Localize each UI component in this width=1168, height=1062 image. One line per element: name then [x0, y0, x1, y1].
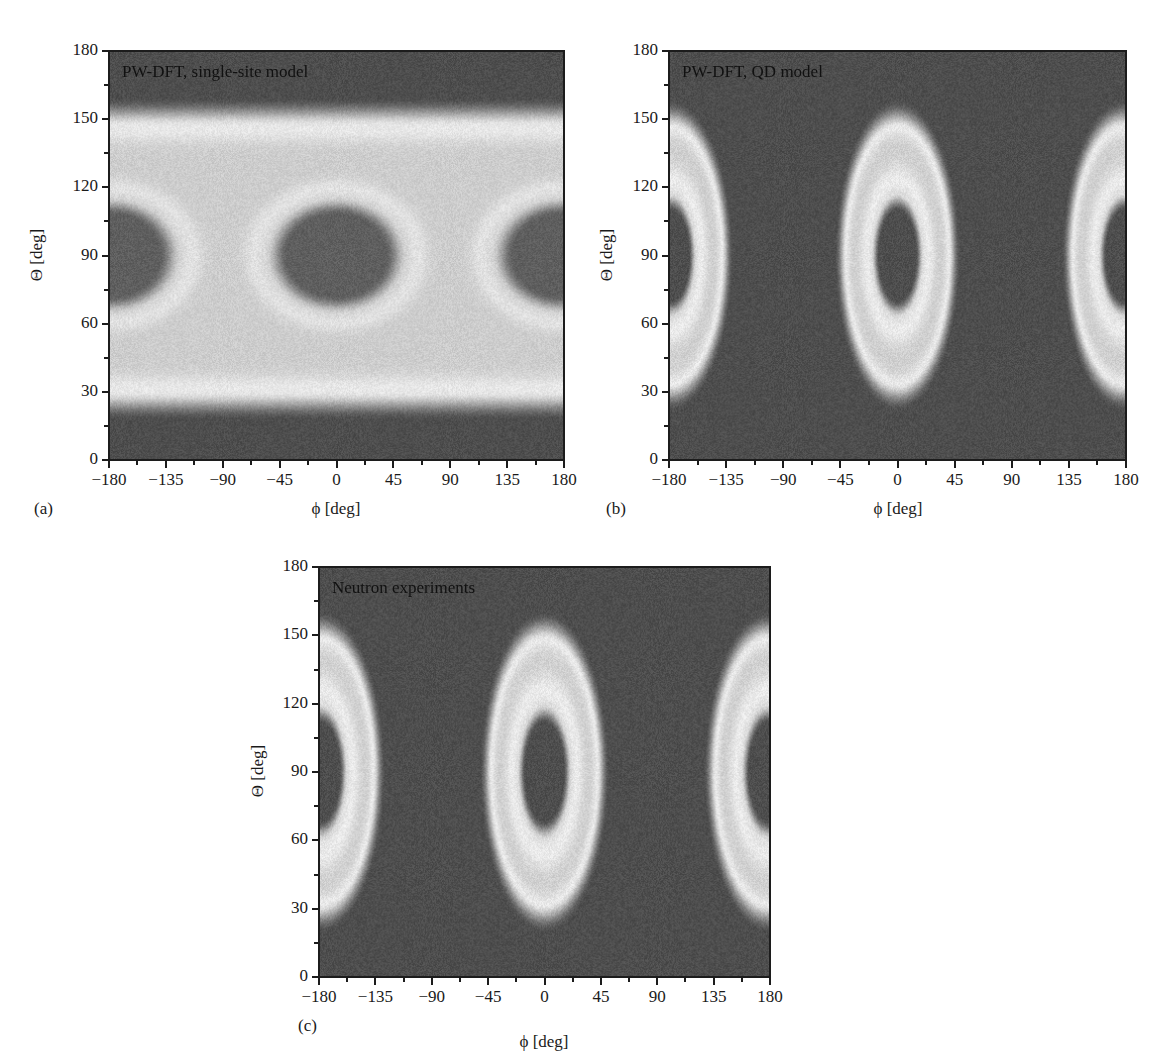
x-tick-mark	[725, 461, 727, 468]
panel-b: PW-DFT, QD model Θ [deg] ϕ [deg] (b) 030…	[584, 0, 1168, 530]
y-axis-label: Θ [deg]	[27, 205, 47, 305]
y-tick-label: 90	[58, 245, 98, 265]
panel-label: (c)	[298, 1016, 317, 1036]
y-tick-mark	[312, 908, 318, 910]
heatmap-canvas-c	[320, 568, 769, 976]
x-tick-label: 0	[520, 987, 570, 1007]
x-tick-mark	[318, 978, 320, 985]
x-tick-mark	[713, 978, 715, 985]
x-minor-tick	[741, 978, 743, 982]
y-minor-tick	[104, 357, 108, 359]
x-tick-label: 180	[1101, 470, 1151, 490]
y-tick-mark	[102, 323, 108, 325]
y-minor-tick	[104, 289, 108, 291]
x-tick-label: −180	[294, 987, 344, 1007]
y-minor-tick	[314, 737, 318, 739]
x-minor-tick	[421, 461, 423, 465]
x-minor-tick	[459, 978, 461, 982]
panel-title: PW-DFT, QD model	[682, 62, 823, 82]
x-tick-label: 45	[930, 470, 980, 490]
heatmap-canvas-a	[110, 52, 563, 459]
y-tick-mark	[662, 255, 668, 257]
y-tick-mark	[102, 255, 108, 257]
x-tick-mark	[954, 461, 956, 468]
y-tick-label: 60	[268, 829, 308, 849]
x-tick-mark	[897, 461, 899, 468]
heatmap-canvas-b	[670, 52, 1125, 459]
x-minor-tick	[515, 978, 517, 982]
y-minor-tick	[314, 805, 318, 807]
heatmap-plot-b: PW-DFT, QD model	[668, 50, 1127, 461]
y-tick-mark	[662, 391, 668, 393]
x-minor-tick	[868, 461, 870, 465]
panel-c: Neutron experiments Θ [deg] ϕ [deg] (c) …	[210, 516, 794, 1062]
x-tick-label: −90	[407, 987, 457, 1007]
x-tick-label: 90	[987, 470, 1037, 490]
y-tick-label: 0	[268, 966, 308, 986]
heatmap-plot-c: Neutron experiments	[318, 566, 771, 978]
x-tick-label: −135	[141, 470, 191, 490]
y-tick-label: 120	[268, 693, 308, 713]
x-tick-label: −45	[463, 987, 513, 1007]
y-tick-mark	[662, 118, 668, 120]
panel-a: PW-DFT, single-site model Θ [deg] ϕ [deg…	[0, 0, 584, 530]
x-tick-label: 135	[482, 470, 532, 490]
y-tick-mark	[312, 771, 318, 773]
x-tick-mark	[392, 461, 394, 468]
y-axis-label: Θ [deg]	[597, 205, 617, 305]
x-minor-tick	[982, 461, 984, 465]
y-minor-tick	[664, 425, 668, 427]
x-tick-mark	[374, 978, 376, 985]
y-tick-mark	[662, 50, 668, 52]
panel-title: PW-DFT, single-site model	[122, 62, 308, 82]
x-tick-label: 0	[873, 470, 923, 490]
y-minor-tick	[664, 84, 668, 86]
y-minor-tick	[664, 220, 668, 222]
x-tick-mark	[1011, 461, 1013, 468]
y-tick-mark	[312, 839, 318, 841]
x-minor-tick	[572, 978, 574, 982]
x-tick-mark	[769, 978, 771, 985]
x-minor-tick	[250, 461, 252, 465]
x-tick-label: 0	[312, 470, 362, 490]
y-tick-label: 0	[618, 449, 658, 469]
x-tick-label: −180	[644, 470, 694, 490]
y-tick-label: 90	[268, 761, 308, 781]
x-axis-label: ϕ [deg]	[798, 499, 998, 519]
x-tick-mark	[506, 461, 508, 468]
x-minor-tick	[684, 978, 686, 982]
x-tick-mark	[449, 461, 451, 468]
y-tick-mark	[312, 566, 318, 568]
x-tick-mark	[782, 461, 784, 468]
x-tick-label: −135	[701, 470, 751, 490]
y-minor-tick	[104, 152, 108, 154]
x-tick-label: −45	[255, 470, 305, 490]
y-tick-label: 180	[58, 40, 98, 60]
x-minor-tick	[925, 461, 927, 465]
y-tick-label: 30	[58, 381, 98, 401]
x-tick-label: 180	[539, 470, 589, 490]
x-tick-label: 90	[632, 987, 682, 1007]
y-tick-label: 180	[618, 40, 658, 60]
y-tick-mark	[662, 186, 668, 188]
y-minor-tick	[104, 84, 108, 86]
y-tick-mark	[102, 50, 108, 52]
y-minor-tick	[314, 669, 318, 671]
y-tick-label: 120	[618, 176, 658, 196]
x-tick-label: 135	[1044, 470, 1094, 490]
x-minor-tick	[811, 461, 813, 465]
y-tick-label: 90	[618, 245, 658, 265]
x-minor-tick	[754, 461, 756, 465]
heatmap-plot-a: PW-DFT, single-site model	[108, 50, 565, 461]
y-minor-tick	[314, 600, 318, 602]
y-tick-mark	[312, 703, 318, 705]
y-minor-tick	[664, 152, 668, 154]
y-minor-tick	[104, 220, 108, 222]
y-minor-tick	[664, 289, 668, 291]
y-minor-tick	[664, 357, 668, 359]
y-tick-label: 150	[58, 108, 98, 128]
y-tick-mark	[312, 634, 318, 636]
x-minor-tick	[535, 461, 537, 465]
x-axis-label: ϕ [deg]	[444, 1032, 644, 1052]
x-minor-tick	[628, 978, 630, 982]
